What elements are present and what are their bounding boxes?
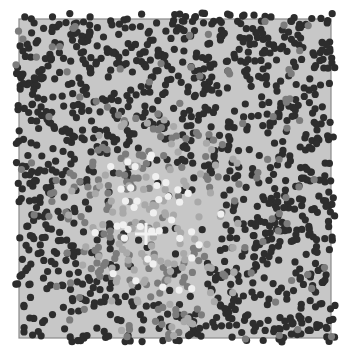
scatter-point bbox=[256, 152, 263, 159]
scatter-point bbox=[221, 258, 228, 265]
scatter-point bbox=[67, 169, 74, 176]
scatter-point bbox=[280, 204, 287, 211]
scatter-point bbox=[248, 289, 255, 296]
scatter-point bbox=[92, 60, 99, 67]
scatter-point bbox=[234, 18, 241, 25]
scatter-point bbox=[327, 119, 334, 126]
scatter-point bbox=[251, 57, 258, 64]
scatter-point bbox=[239, 120, 246, 127]
scatter-point bbox=[133, 91, 140, 98]
scatter-point bbox=[108, 94, 115, 101]
scatter-point bbox=[123, 60, 130, 67]
scatter-point bbox=[296, 195, 303, 202]
scatter-point bbox=[49, 145, 56, 152]
scatter-point bbox=[264, 260, 271, 267]
scatter-point bbox=[271, 140, 278, 147]
scatter-point bbox=[229, 244, 236, 251]
scatter-point bbox=[272, 299, 279, 306]
scatter-point bbox=[64, 68, 71, 75]
scatter-point bbox=[18, 271, 25, 278]
scatter-point bbox=[215, 90, 222, 97]
scatter-point bbox=[142, 48, 149, 55]
scatter-point bbox=[116, 240, 123, 247]
scatter-point bbox=[161, 116, 168, 123]
scatter-point bbox=[109, 209, 116, 216]
scatter-point bbox=[312, 91, 319, 98]
scatter-point bbox=[67, 58, 74, 65]
scatter-point bbox=[141, 201, 148, 208]
scatter-point bbox=[317, 81, 324, 88]
scatter-point bbox=[234, 172, 241, 179]
scatter-point bbox=[146, 78, 153, 85]
scatter-point bbox=[175, 72, 182, 79]
scatter-point bbox=[283, 125, 290, 132]
scatter-point bbox=[306, 144, 313, 151]
scatter-point bbox=[115, 111, 122, 118]
scatter-point bbox=[295, 183, 302, 190]
scatter-point bbox=[231, 124, 238, 131]
scatter-point bbox=[158, 124, 165, 131]
scatter-point bbox=[29, 233, 36, 240]
scatter-point bbox=[131, 266, 138, 273]
scatter-point bbox=[158, 60, 165, 67]
scatter-point bbox=[187, 320, 194, 327]
scatter-point bbox=[292, 106, 299, 113]
scatter-point bbox=[243, 126, 250, 133]
scatter-point bbox=[221, 30, 228, 37]
scatter-point bbox=[23, 223, 30, 230]
scatter-point bbox=[289, 320, 296, 327]
scatter-point bbox=[227, 227, 234, 234]
scatter-point bbox=[126, 138, 133, 145]
scatter-point bbox=[37, 249, 44, 256]
scatter-point bbox=[276, 238, 283, 245]
scatter-point bbox=[117, 317, 124, 324]
scatter-point bbox=[255, 112, 262, 119]
scatter-point bbox=[29, 331, 36, 338]
scatter-point bbox=[18, 166, 25, 173]
scatter-point bbox=[306, 87, 313, 94]
scatter-point bbox=[196, 241, 203, 248]
scatter-point bbox=[279, 147, 286, 154]
scatter-point bbox=[260, 337, 267, 344]
scatter-point bbox=[265, 99, 272, 106]
scatter-point bbox=[275, 288, 282, 295]
scatter-point bbox=[79, 281, 86, 288]
scatter-point bbox=[235, 181, 242, 188]
scatter-point bbox=[222, 221, 229, 228]
scatter-point bbox=[70, 253, 77, 260]
scatter-point bbox=[265, 62, 272, 69]
scatter-point bbox=[186, 32, 193, 39]
scatter-point bbox=[239, 13, 246, 20]
scatter-point bbox=[48, 226, 55, 233]
scatter-point bbox=[240, 113, 247, 120]
scatter-point bbox=[61, 194, 68, 201]
scatter-point bbox=[250, 253, 257, 260]
scatter-point bbox=[168, 216, 175, 223]
scatter-point bbox=[285, 161, 292, 168]
scatter-point bbox=[243, 25, 250, 32]
scatter-point bbox=[312, 303, 319, 310]
scatter-point bbox=[196, 73, 203, 80]
scatter-point bbox=[236, 46, 243, 53]
scatter-point bbox=[17, 42, 24, 49]
scatter-point bbox=[27, 294, 34, 301]
scatter-point bbox=[124, 16, 131, 23]
scatter-point bbox=[79, 56, 86, 63]
scatter-point bbox=[40, 257, 47, 264]
scatter-point bbox=[92, 190, 99, 197]
scatter-point bbox=[209, 319, 216, 326]
scatter-point bbox=[78, 103, 85, 110]
scatter-point bbox=[258, 93, 265, 100]
scatter-point bbox=[85, 205, 92, 212]
scatter-point bbox=[207, 189, 214, 196]
scatter-point bbox=[83, 297, 90, 304]
scatter-point bbox=[51, 125, 58, 132]
scatter-point bbox=[88, 117, 95, 124]
scatter-point bbox=[283, 296, 290, 303]
scatter-point bbox=[199, 10, 206, 17]
scatter-point bbox=[20, 303, 27, 310]
scatter-point bbox=[108, 21, 115, 28]
scatter-point bbox=[195, 213, 202, 220]
scatter-point bbox=[188, 285, 195, 292]
scatter-point bbox=[239, 253, 246, 260]
